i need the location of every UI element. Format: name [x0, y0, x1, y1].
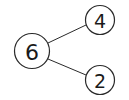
whole-circle: 6 [15, 34, 50, 69]
connector-whole-to-part-1 [48, 25, 86, 43]
part-top-label: 4 [94, 10, 106, 32]
whole-label: 6 [25, 40, 39, 65]
part-circle-top: 4 [86, 6, 115, 35]
number-bond-diagram: 6 4 2 [0, 0, 129, 100]
part-bottom-label: 2 [94, 70, 106, 92]
connector-whole-to-part-2 [48, 59, 86, 75]
part-circle-bottom: 2 [86, 66, 115, 95]
